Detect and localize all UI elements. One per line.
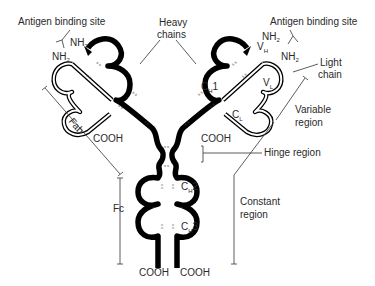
cooh-right-heavy: COOH	[180, 267, 210, 278]
antigen-binding-site-right-label: Antigen binding site	[270, 16, 358, 27]
svg-text:s s: s s	[160, 184, 165, 189]
cooh-left-light: COOH	[93, 133, 123, 144]
disulfide-bonds: s s s s s s s s s s s s s s s s s s s s …	[85, 60, 247, 229]
svg-text:s s: s s	[164, 144, 169, 149]
fc-label: Fc	[113, 203, 124, 214]
hinge-region-label: Hinge region	[264, 147, 321, 158]
left-heavy-chain	[84, 39, 163, 268]
svg-text:s s: s s	[230, 60, 237, 67]
cooh-left-heavy: COOH	[139, 267, 169, 278]
light-chain-label: Light	[320, 57, 342, 68]
vh-label: VH	[257, 41, 268, 54]
svg-text:s s: s s	[171, 184, 176, 189]
variable-region-label: Variable	[295, 104, 331, 115]
antigen-binding-site-left-label: Antigen binding site	[18, 16, 106, 27]
svg-text:s s: s s	[171, 224, 176, 229]
svg-text:s s: s s	[95, 60, 102, 67]
constant-region-label: Constant	[240, 196, 280, 207]
nh2-right-light: NH2	[281, 51, 299, 63]
cooh-right-light: COOH	[201, 133, 231, 144]
light-chain-label-2: chain	[318, 69, 342, 80]
heavy-chains-label: Heavy	[159, 17, 187, 28]
nh2-left-light: NH2	[52, 51, 70, 63]
right-heavy-chain	[172, 39, 251, 268]
heavy-chains-label-2: chains	[157, 29, 186, 40]
vl-label: VL	[263, 77, 274, 90]
svg-text:s s: s s	[164, 163, 169, 168]
nh2-left-heavy: NH2	[70, 37, 88, 49]
constant-region-label-2: region	[240, 209, 268, 220]
antibody-diagram: s s s s s s s s s s s s s s s s s s s s …	[0, 0, 375, 286]
nh2-right-heavy: NH2	[262, 31, 280, 43]
svg-text:s s: s s	[160, 224, 165, 229]
svg-text:s s: s s	[131, 90, 138, 97]
variable-region-label-2: region	[295, 117, 323, 128]
